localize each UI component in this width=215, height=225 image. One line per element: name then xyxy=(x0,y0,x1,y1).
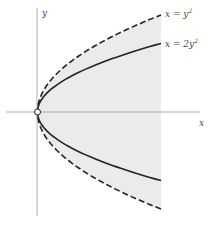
origin-open-circle xyxy=(35,109,41,115)
x-axis-label: x xyxy=(199,118,204,128)
y-axis-label: y xyxy=(41,8,48,18)
outer-curve-label: x = y2 xyxy=(165,7,192,19)
figure: y x x = y2 x = 2y2 xyxy=(0,0,215,225)
diagram-svg: y x x = y2 x = 2y2 xyxy=(0,0,215,225)
inner-curve-label: x = 2y2 xyxy=(165,37,198,49)
